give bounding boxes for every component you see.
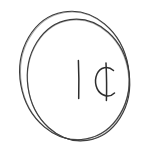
- coin-sketch-image: Hand-drawn sketch of a one-cent coin A r…: [0, 0, 146, 151]
- coin-drawing-svg: Hand-drawn sketch of a one-cent coin A r…: [0, 0, 146, 151]
